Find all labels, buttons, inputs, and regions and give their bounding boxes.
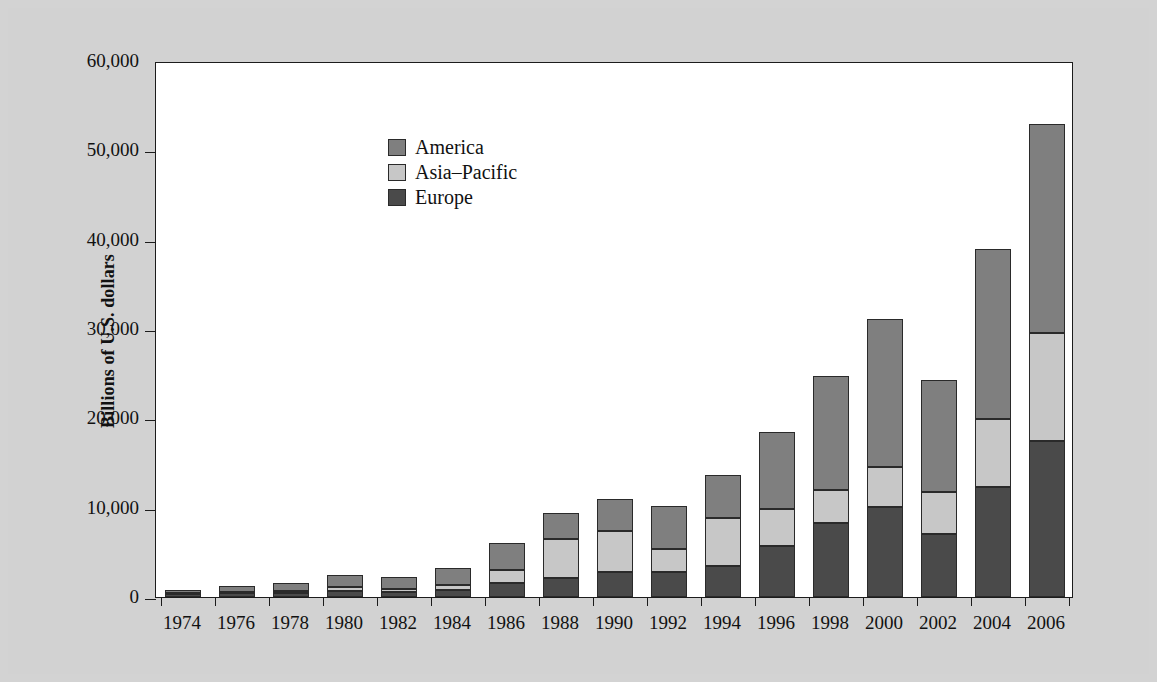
legend-item[interactable]: Asia–Pacific — [388, 160, 517, 185]
x-axis-tick — [1025, 597, 1026, 606]
bar-segment-asia-pacific[interactable] — [327, 587, 363, 591]
x-axis-tick — [863, 597, 864, 606]
bar-stack[interactable] — [1029, 61, 1065, 597]
bar-segment-europe[interactable] — [975, 487, 1011, 597]
figure-container: Billions of U.S. dollars 010,00020,00030… — [0, 0, 1157, 682]
chart-legend: AmericaAsia–PacificEurope — [388, 135, 517, 210]
bar-segment-europe[interactable] — [327, 591, 363, 597]
bar-segment-asia-pacific[interactable] — [219, 591, 255, 593]
bar-segment-asia-pacific[interactable] — [759, 509, 795, 546]
bar-stack[interactable] — [867, 61, 903, 597]
bar-segment-america[interactable] — [543, 513, 579, 539]
bar-segment-america[interactable] — [975, 249, 1011, 420]
x-axis-tick-label: 1986 — [476, 612, 536, 634]
x-axis-tick-label: 1996 — [746, 612, 806, 634]
bar-segment-america[interactable] — [273, 583, 309, 591]
bar-stack[interactable] — [273, 61, 309, 597]
x-axis-tick — [161, 597, 162, 606]
bar-segment-america[interactable] — [219, 586, 255, 591]
bar-stack[interactable] — [543, 61, 579, 597]
x-axis-tick — [971, 597, 972, 606]
bar-segment-america[interactable] — [1029, 124, 1065, 334]
y-axis-tick — [145, 331, 156, 332]
legend-swatch-icon — [388, 139, 406, 156]
bar-segment-europe[interactable] — [813, 523, 849, 597]
legend-item-label: Asia–Pacific — [415, 161, 517, 184]
bar-segment-europe[interactable] — [705, 566, 741, 597]
bar-segment-europe[interactable] — [1029, 441, 1065, 597]
bar-segment-america[interactable] — [327, 575, 363, 588]
bar-stack[interactable] — [327, 61, 363, 597]
x-axis-tick-label: 1992 — [638, 612, 698, 634]
x-axis-tick — [431, 597, 432, 606]
x-axis-tick — [917, 597, 918, 606]
bar-segment-america[interactable] — [813, 376, 849, 489]
bar-segment-america[interactable] — [705, 475, 741, 519]
bar-segment-europe[interactable] — [867, 507, 903, 597]
bar-segment-europe[interactable] — [219, 593, 255, 597]
y-axis-tick-label: 30,000 — [87, 318, 139, 340]
legend-item[interactable]: America — [388, 135, 517, 160]
legend-item[interactable]: Europe — [388, 185, 517, 210]
y-axis-title: Billions of U.S. dollars — [98, 254, 119, 428]
bar-stack[interactable] — [813, 61, 849, 597]
x-axis-tick-label: 2002 — [908, 612, 968, 634]
bar-segment-america[interactable] — [435, 568, 471, 585]
bar-stack[interactable] — [921, 61, 957, 597]
bar-segment-europe[interactable] — [597, 572, 633, 597]
x-axis-tick — [1069, 597, 1070, 606]
bar-stack[interactable] — [705, 61, 741, 597]
x-axis-tick-label: 1980 — [314, 612, 374, 634]
bar-segment-america[interactable] — [921, 380, 957, 493]
bar-segment-asia-pacific[interactable] — [543, 539, 579, 578]
bar-segment-europe[interactable] — [651, 572, 687, 597]
x-axis-tick — [539, 597, 540, 606]
bar-segment-america[interactable] — [651, 506, 687, 549]
plot-area: AmericaAsia–PacificEurope — [155, 62, 1073, 598]
bar-segment-europe[interactable] — [543, 578, 579, 597]
bar-segment-europe[interactable] — [381, 592, 417, 597]
bar-segment-asia-pacific[interactable] — [975, 419, 1011, 487]
bar-segment-europe[interactable] — [435, 590, 471, 597]
bar-segment-asia-pacific[interactable] — [381, 589, 417, 592]
x-axis-tick — [377, 597, 378, 606]
x-axis-tick-label: 2006 — [1016, 612, 1076, 634]
bar-segment-asia-pacific[interactable] — [651, 549, 687, 572]
bar-segment-europe[interactable] — [273, 593, 309, 597]
bar-stack[interactable] — [759, 61, 795, 597]
bar-segment-asia-pacific[interactable] — [921, 492, 957, 534]
bar-segment-america[interactable] — [759, 432, 795, 510]
bar-stack[interactable] — [651, 61, 687, 597]
x-axis-tick-label: 2004 — [962, 612, 1022, 634]
bar-segment-america[interactable] — [597, 499, 633, 531]
bar-segment-asia-pacific[interactable] — [705, 518, 741, 565]
bar-segment-asia-pacific[interactable] — [597, 531, 633, 572]
legend-swatch-icon — [388, 189, 406, 206]
bar-segment-asia-pacific[interactable] — [867, 467, 903, 507]
bar-segment-europe[interactable] — [165, 594, 201, 597]
bar-segment-asia-pacific[interactable] — [1029, 333, 1065, 440]
y-axis-tick-label: 20,000 — [87, 407, 139, 429]
bar-stack[interactable] — [975, 61, 1011, 597]
bar-segment-europe[interactable] — [489, 583, 525, 597]
x-axis-tick-label: 1998 — [800, 612, 860, 634]
bar-segment-asia-pacific[interactable] — [489, 570, 525, 583]
bar-segment-asia-pacific[interactable] — [273, 591, 309, 593]
bar-segment-america[interactable] — [489, 543, 525, 570]
bar-segment-america[interactable] — [867, 319, 903, 466]
y-axis-tick — [145, 599, 156, 600]
bar-segment-america[interactable] — [165, 590, 201, 594]
bar-segment-asia-pacific[interactable] — [813, 490, 849, 523]
bar-segment-asia-pacific[interactable] — [435, 585, 471, 589]
bar-stack[interactable] — [165, 61, 201, 597]
y-axis-tick-label: 10,000 — [87, 497, 139, 519]
bar-segment-america[interactable] — [381, 577, 417, 589]
x-axis-tick-label: 1978 — [260, 612, 320, 634]
bar-segment-europe[interactable] — [759, 546, 795, 597]
bar-stack[interactable] — [597, 61, 633, 597]
x-axis-tick-label: 2000 — [854, 612, 914, 634]
bar-segment-europe[interactable] — [921, 534, 957, 597]
x-axis-tick-label: 1982 — [368, 612, 428, 634]
bar-stack[interactable] — [219, 61, 255, 597]
x-axis-tick-label: 1990 — [584, 612, 644, 634]
